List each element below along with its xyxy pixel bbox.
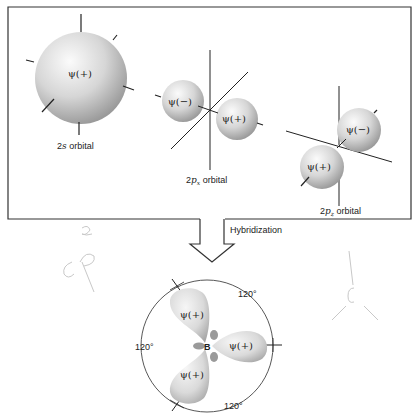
lobe-label: ψ(−): [346, 124, 370, 135]
lobe-label: ψ(+): [307, 161, 331, 172]
orbital-2s: ψ(+) 2s orbital: [26, 14, 134, 151]
lobe-label: ψ(+): [180, 309, 204, 320]
angle-label: 120°: [135, 342, 154, 352]
orbital-label-2s: 2s orbital: [57, 141, 94, 151]
hybridization-arrow: [190, 219, 234, 262]
orbital-2px: ψ(−) ψ(+) 2px orbital: [155, 50, 263, 186]
orbital-label-2pz: 2pz orbital: [320, 206, 361, 217]
orbital-2pz: ψ(−) ψ(+) 2pz orbital: [286, 86, 392, 217]
lobe-label: ψ(+): [229, 340, 253, 351]
center-atom: B: [204, 342, 211, 352]
handwritten-sp2: [64, 226, 95, 292]
hybridization-label: Hybridization: [230, 225, 282, 235]
lobe-label: ψ(+): [180, 369, 204, 380]
angle-label: 120°: [238, 289, 257, 299]
angle-label: 120°: [224, 401, 243, 411]
sp2-hybrid: B ψ(+) ψ(+) ψ(+) 120° 120° 120°: [135, 279, 282, 412]
handwritten-mark-right: [332, 251, 378, 320]
lobe-label: ψ(+): [222, 113, 246, 124]
orbital-diagram: Hybridization ψ(+) 2s orbital ψ(−) ψ(+) …: [0, 0, 419, 419]
orbital-label-2px: 2px orbital: [186, 175, 227, 186]
lobe-label: ψ(−): [168, 96, 192, 107]
lobe-label: ψ(+): [68, 68, 92, 79]
